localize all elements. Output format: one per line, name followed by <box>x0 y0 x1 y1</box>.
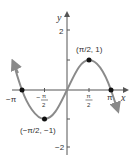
point-max <box>87 58 92 63</box>
svg-text:2: 2 <box>87 102 91 108</box>
x-tick-pi: π <box>107 93 113 102</box>
point-neg-pi <box>20 88 25 93</box>
point-pi <box>109 88 114 93</box>
svg-text:π: π <box>87 93 91 99</box>
svg-text:−: − <box>36 94 40 101</box>
min-point-label: (−π/2, −1) <box>20 126 56 135</box>
y-tick-2: 2 <box>59 27 64 36</box>
x-axis-label: x <box>120 92 126 103</box>
sine-graph: y x 2 −2 −π π − π 2 π 2 (π/2, 1) (−π/2, … <box>0 0 136 161</box>
svg-text:2: 2 <box>42 102 46 108</box>
max-point-label: (π/2, 1) <box>76 45 103 54</box>
point-min <box>42 117 47 122</box>
svg-text:π: π <box>42 93 46 99</box>
x-tick-neg-pi: −π <box>6 95 17 104</box>
y-axis-label: y <box>56 12 62 23</box>
x-tick-half-pi: π 2 <box>86 93 93 108</box>
y-tick-neg2: −2 <box>55 143 65 152</box>
x-tick-neg-half-pi: − π 2 <box>36 93 48 108</box>
